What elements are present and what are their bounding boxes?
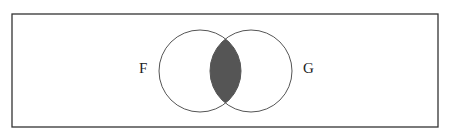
- set-f-label: F: [139, 60, 147, 76]
- set-g-label: G: [303, 60, 314, 76]
- venn-diagram: F G: [0, 0, 452, 137]
